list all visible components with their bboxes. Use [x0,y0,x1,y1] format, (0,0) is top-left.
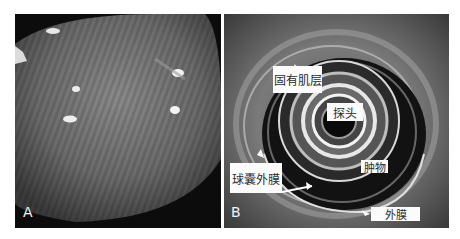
panel-letter-b: B [231,204,241,220]
light-reflection [63,116,77,123]
eus-image-panel: 固有肌层 探头 肿物 球囊外膜 外膜 B [224,14,449,228]
light-reflection [46,28,60,34]
label-probe: 探头 [327,103,363,121]
label-balloon-membrane: 球囊外膜 [230,163,282,193]
panel-letter-a: A [23,204,33,220]
label-mass: 肿物 [361,160,388,173]
label-muscularis-propria: 固有肌层 [273,66,322,93]
endoscopy-image-panel: A [15,14,221,228]
eus-image [224,14,449,228]
label-adventitia: 外膜 [371,207,420,221]
light-reflection [72,86,80,92]
endoscopy-image [15,14,221,228]
light-reflection [170,106,180,114]
